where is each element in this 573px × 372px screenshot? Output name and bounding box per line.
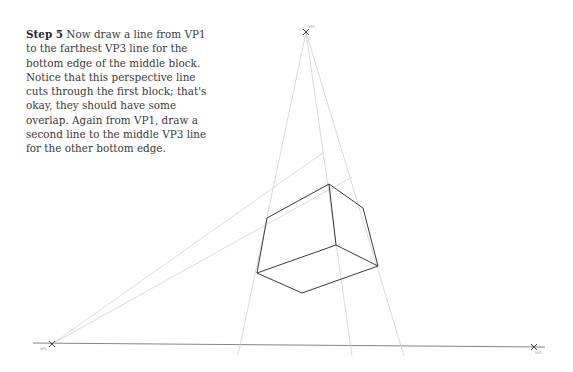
vp2-label: VP2 — [535, 351, 542, 355]
vp1-marker — [49, 341, 55, 347]
vp1-guide-lines — [52, 152, 352, 344]
horizon-line — [33, 343, 545, 347]
vp3-label: VP3 — [308, 25, 315, 29]
perspective-drawing: VP1 VP2 VP3 — [0, 0, 573, 372]
vp1-label: VP1 — [40, 347, 47, 351]
block — [257, 184, 378, 293]
